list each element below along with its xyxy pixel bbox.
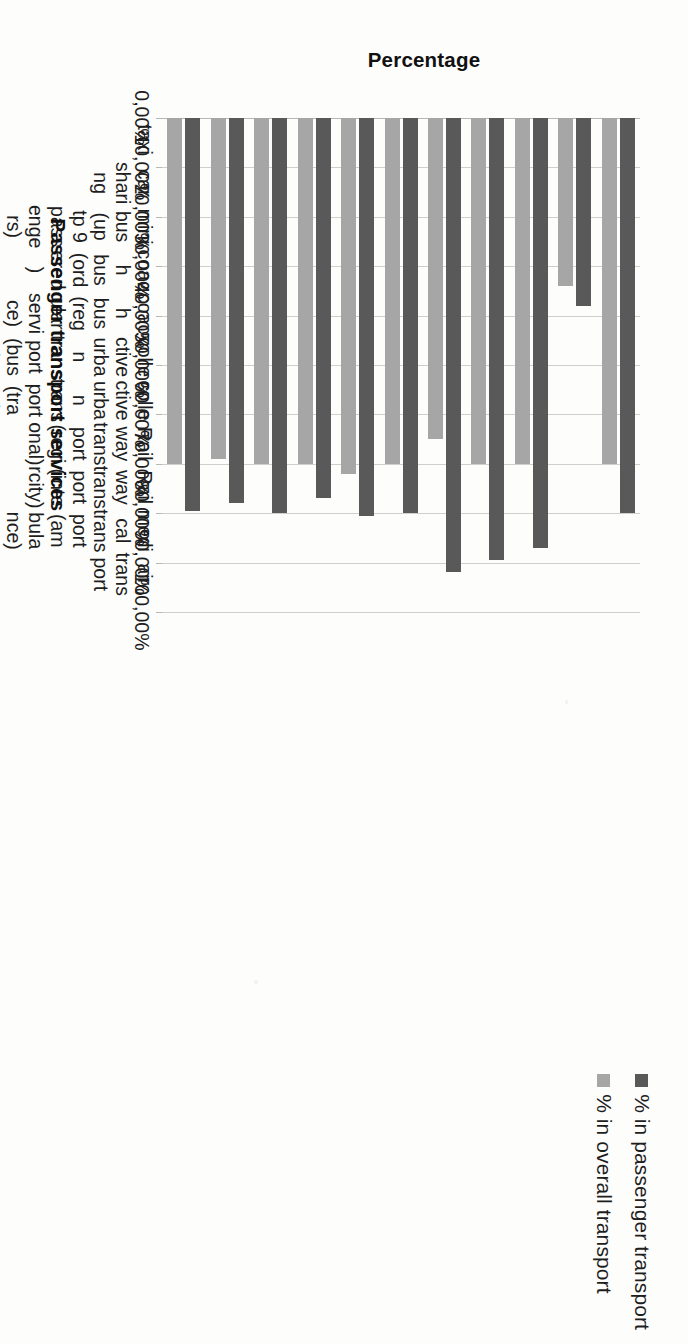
bar[interactable] <box>515 118 530 464</box>
bar[interactable] <box>211 118 226 459</box>
bar-group[interactable] <box>553 118 596 612</box>
bar-group[interactable] <box>423 118 466 612</box>
plot-area: taxicar sharingmini bus (up tp 9 passeng… <box>162 118 640 612</box>
bar-chart: Percentage taxicar sharingmini bus (up t… <box>0 0 688 1344</box>
gridline <box>162 612 640 613</box>
bar-group[interactable] <box>510 118 553 612</box>
bar[interactable] <box>359 118 374 516</box>
bar[interactable] <box>254 118 269 464</box>
bar[interactable] <box>403 118 418 513</box>
bar[interactable] <box>385 118 400 464</box>
rotated-page-canvas: Percentage taxicar sharingmini bus (up t… <box>0 0 688 1344</box>
bar[interactable] <box>229 118 244 503</box>
legend-item[interactable]: % in overall transport <box>592 1074 616 1293</box>
bar[interactable] <box>576 118 591 306</box>
bar[interactable] <box>620 118 635 513</box>
bar-group[interactable] <box>466 118 509 612</box>
value-axis-title: Percentage <box>364 48 484 72</box>
bar[interactable] <box>446 118 461 572</box>
bar[interactable] <box>489 118 504 560</box>
bar[interactable] <box>558 118 573 286</box>
bar[interactable] <box>272 118 287 513</box>
bar-group[interactable] <box>205 118 248 612</box>
legend-swatch-icon <box>598 1074 611 1087</box>
chart-legend: % in passenger transport % in overall tr… <box>592 1074 654 1330</box>
bar-group[interactable] <box>162 118 205 612</box>
bar-group[interactable] <box>597 118 640 612</box>
category-axis-title: Passenger transport services <box>46 118 70 612</box>
bar[interactable] <box>602 118 617 464</box>
legend-item[interactable]: % in passenger transport <box>630 1074 654 1330</box>
legend-item-label: % in passenger transport <box>630 1094 654 1330</box>
legend-swatch-icon <box>636 1074 649 1087</box>
bar[interactable] <box>185 118 200 511</box>
bar[interactable] <box>471 118 486 464</box>
bar[interactable] <box>533 118 548 548</box>
bar[interactable] <box>316 118 331 498</box>
value-tick-label: 100,00% <box>130 574 153 651</box>
bar-group[interactable] <box>249 118 292 612</box>
legend-item-label: % in overall transport <box>592 1094 616 1293</box>
bar[interactable] <box>167 118 182 464</box>
bar[interactable] <box>428 118 443 439</box>
bar-group[interactable] <box>336 118 379 612</box>
bar-group[interactable] <box>292 118 335 612</box>
bar[interactable] <box>341 118 356 474</box>
axis-tick <box>156 612 162 613</box>
bar[interactable] <box>298 118 313 464</box>
bar-group[interactable] <box>379 118 422 612</box>
